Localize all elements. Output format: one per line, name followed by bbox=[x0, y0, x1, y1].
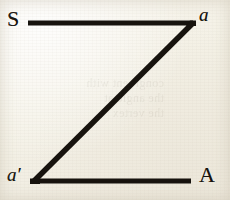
vertex-label-a-prime: a′ bbox=[7, 165, 21, 184]
vertex-label-a: a bbox=[199, 5, 209, 24]
vertex-label-s: S bbox=[7, 8, 19, 30]
figure-container: congruent with the angle at the vertex S… bbox=[0, 0, 230, 200]
zigzag-diagram bbox=[0, 0, 230, 200]
vertex-label-a-capital: A bbox=[199, 164, 215, 186]
bottom-left-vertex-join bbox=[30, 179, 40, 185]
diagonal-segment bbox=[34, 23, 193, 181]
